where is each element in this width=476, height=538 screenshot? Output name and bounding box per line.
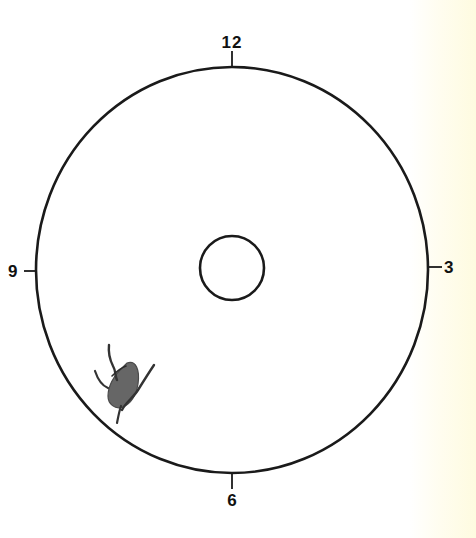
inner-circle <box>200 236 264 300</box>
lesion-vessel-left <box>95 371 108 388</box>
label-6: 6 <box>227 491 236 510</box>
lesion-marking <box>95 345 154 423</box>
lesion-body <box>108 362 139 407</box>
clock-face-diagram: 12 3 6 9 <box>0 0 476 538</box>
lesion-vessel-bottom <box>117 406 121 423</box>
label-12: 12 <box>222 33 243 52</box>
diagram-page: 12 3 6 9 <box>0 0 476 538</box>
label-3: 3 <box>444 258 453 277</box>
outer-circle <box>36 67 428 473</box>
label-9: 9 <box>8 262 17 281</box>
